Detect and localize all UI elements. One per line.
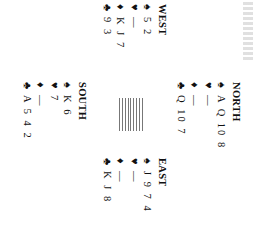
west-clubs: 9 3 [101,17,115,36]
hand-north: NORTH ♠A Q 10 8 ♥— ♦— ♣Q 10 7 [175,82,244,149]
heart-icon: ♥ [48,82,62,95]
heart-icon: ♥ [128,4,142,17]
south-hearts: 7 [48,95,62,102]
south-clubs: A 5 4 2 [21,95,35,140]
hand-east: EAST ♠J 9 7 4 ♥— ♦— ♣K J 8 [101,158,170,213]
club-icon: ♣ [175,82,189,95]
east-clubs: K J 8 [101,171,115,203]
west-diamonds: K J 7 [114,17,128,49]
east-spades: J 9 7 4 [141,171,155,213]
north-hearts: — [202,95,216,108]
heart-icon: ♥ [202,82,216,95]
heart-icon: ♥ [128,158,142,171]
bridge-diagram: NORTH ♠A Q 10 8 ♥— ♦— ♣Q 10 7 WEST ♠5 2 … [0,0,255,230]
north-diamonds: — [188,95,202,108]
clipped-caption [243,2,253,60]
hand-north-label: NORTH [230,82,244,149]
club-icon: ♣ [101,158,115,171]
spade-icon: ♠ [215,82,229,95]
hand-south: SOUTH ♠K 6 ♥7 ♦— ♣A 5 4 2 [21,82,90,140]
south-diamonds: — [34,95,48,108]
north-clubs: Q 10 7 [175,95,189,136]
spade-icon: ♠ [141,4,155,17]
north-spades: A Q 10 8 [215,95,229,149]
club-icon: ♣ [21,82,35,95]
west-hearts: — [128,17,142,30]
spade-icon: ♠ [141,158,155,171]
west-spades: 5 2 [141,17,155,36]
diamond-icon: ♦ [114,4,128,17]
hand-south-label: SOUTH [76,82,90,140]
club-icon: ♣ [101,4,115,17]
diamond-icon: ♦ [188,82,202,95]
south-spades: K 6 [61,95,75,116]
east-diamonds: — [114,171,128,184]
diamond-icon: ♦ [34,82,48,95]
hand-west-label: WEST [156,4,170,49]
hand-east-label: EAST [156,158,170,213]
spade-icon: ♠ [61,82,75,95]
table-lines-icon [119,98,143,131]
diamond-icon: ♦ [114,158,128,171]
east-hearts: — [128,171,142,184]
hand-west: WEST ♠5 2 ♥— ♦K J 7 ♣9 3 [101,4,170,49]
